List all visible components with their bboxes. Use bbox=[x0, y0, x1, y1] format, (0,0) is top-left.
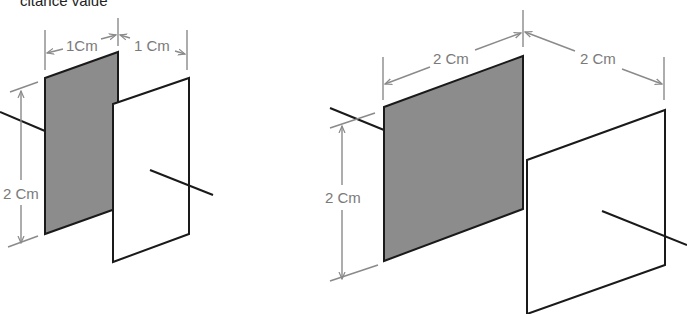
plate-height-label: 2 Cm bbox=[325, 189, 361, 206]
dark-plate bbox=[45, 52, 118, 234]
extension-line bbox=[330, 113, 375, 128]
caption-text: citance value bbox=[20, 0, 108, 9]
dimension-arrow bbox=[475, 33, 521, 50]
dimension-arrow bbox=[120, 35, 130, 38]
plate-height-label: 2 Cm bbox=[3, 185, 39, 202]
extension-line bbox=[8, 236, 38, 247]
light-plate bbox=[527, 110, 665, 314]
extension-line bbox=[330, 265, 378, 281]
large-capacitor-figure: 2 Cm 2 Cm 2 Cm bbox=[325, 10, 687, 314]
capacitor-diagram: citance value 1Cm 1 Cm 2 Cm bbox=[0, 0, 687, 314]
dimension-arrow bbox=[622, 69, 662, 84]
plate-width-label: 2 Cm bbox=[433, 50, 469, 67]
dark-plate bbox=[384, 56, 523, 261]
dimension-arrow bbox=[175, 51, 185, 54]
plate-gap-label: 1 Cm bbox=[134, 37, 170, 54]
plate-width-label: 1Cm bbox=[66, 37, 98, 54]
extension-line bbox=[10, 82, 38, 92]
plate-gap-label: 2 Cm bbox=[580, 50, 616, 67]
dimension-arrow bbox=[47, 49, 63, 53]
dimension-arrow bbox=[101, 35, 116, 39]
small-capacitor-figure: 1Cm 1 Cm 2 Cm bbox=[0, 18, 213, 262]
dimension-arrow bbox=[525, 32, 575, 51]
left-lead-wire bbox=[0, 112, 45, 131]
dimension-arrow bbox=[385, 67, 430, 84]
